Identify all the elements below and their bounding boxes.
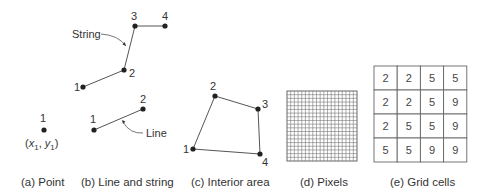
line-vertex-1: [91, 127, 96, 132]
vector-raster-diagram: 1 (x1, y1) (a) Point 1 2 3 4 String 1 2 …: [0, 0, 488, 196]
grid-cell-value: 5: [406, 144, 412, 156]
grid-cell-value: 2: [406, 96, 412, 108]
string-callout-arrow: [101, 34, 126, 46]
grid-cells-table: 2255225925595599: [374, 66, 467, 162]
pixel-grid-frame: [287, 91, 357, 161]
grid-cell-value: 5: [406, 120, 412, 132]
string-label-3: 3: [131, 10, 137, 22]
area-label-3: 3: [262, 98, 268, 110]
caption-point: (a) Point: [21, 176, 65, 188]
grid-cell-value: 5: [429, 120, 435, 132]
grid-cell-value: 5: [429, 96, 435, 108]
line-segment: [94, 109, 143, 130]
line-callout-label: Line: [146, 127, 167, 139]
area-vertex-2: [212, 93, 217, 98]
pixel-grid: [287, 91, 357, 161]
point-coordinate-label: (x1, y1): [25, 137, 58, 152]
grid-cell-value: 9: [452, 120, 458, 132]
area-vertex-3: [255, 106, 260, 111]
caption-pixels: (d) Pixels: [300, 176, 348, 188]
string-vertex-3: [132, 23, 137, 28]
panel-pixels: (d) Pixels: [287, 91, 357, 188]
line-label-2: 2: [140, 93, 146, 105]
line-callout-arrow: [123, 122, 143, 133]
panel-point: 1 (x1, y1) (a) Point: [21, 112, 65, 188]
area-label-1: 1: [183, 143, 189, 155]
grid-cell-value: 9: [452, 144, 458, 156]
grid-cell-value: 9: [429, 144, 435, 156]
caption-interior-area: (c) Interior area: [191, 176, 270, 188]
point-marker: [41, 127, 46, 132]
string-callout-label: String: [72, 28, 101, 40]
grid-cell-value: 5: [429, 72, 435, 84]
point-vertex-label: 1: [40, 112, 46, 124]
grid-cell-value: 5: [452, 72, 458, 84]
string-label-4: 4: [162, 10, 168, 22]
panel-line-and-string: 1 2 3 4 String 1 2 Line (b) Line and str…: [72, 10, 174, 188]
grid-cell-value: 2: [406, 72, 412, 84]
line-label-1: 1: [90, 113, 96, 125]
grid-cell-value: 5: [383, 144, 389, 156]
string-vertex-2: [121, 67, 126, 72]
grid-cell-value: 9: [452, 96, 458, 108]
panel-grid-cells: 2255225925595599 (e) Grid cells: [374, 66, 467, 188]
grid-cell-value: 2: [383, 120, 389, 132]
caption-line-and-string: (b) Line and string: [81, 176, 174, 188]
panel-interior-area: 1 2 3 4 (c) Interior area: [183, 80, 270, 188]
area-label-4: 4: [262, 156, 268, 168]
line-vertex-2: [140, 106, 145, 111]
grid-cell-value: 2: [383, 72, 389, 84]
string-vertex-1: [80, 84, 85, 89]
area-polygon: [193, 96, 260, 154]
area-vertex-1: [190, 146, 195, 151]
string-label-1: 1: [74, 81, 80, 93]
grid-cell-value: 2: [383, 96, 389, 108]
caption-grid-cells: (e) Grid cells: [390, 176, 455, 188]
area-label-2: 2: [210, 80, 216, 92]
string-label-2: 2: [129, 67, 135, 79]
string-vertex-4: [162, 23, 167, 28]
